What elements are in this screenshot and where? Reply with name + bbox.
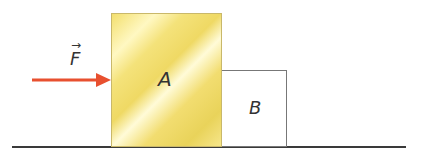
vector-arrow-mark: → [71, 38, 81, 52]
block-a-label: A [158, 67, 172, 91]
force-arrow-icon [30, 72, 112, 88]
block-b-label: B [249, 97, 261, 118]
force-label: → F [70, 48, 80, 69]
